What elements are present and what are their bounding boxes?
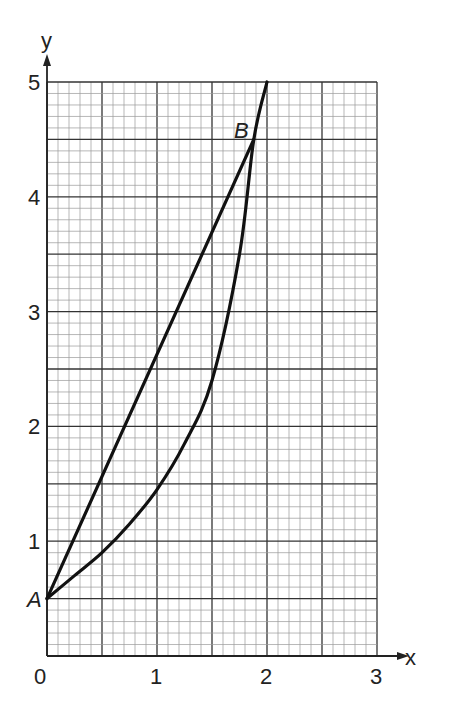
point-b-label: B xyxy=(234,120,249,142)
x-tick-2: 2 xyxy=(260,666,272,688)
y-axis-arrow-icon xyxy=(43,54,51,66)
x-tick-1: 1 xyxy=(150,666,162,688)
point-a-label: A xyxy=(27,589,42,611)
y-tick-5: 5 xyxy=(28,72,40,94)
y-tick-4: 4 xyxy=(28,187,40,209)
graph-plot xyxy=(0,0,451,706)
x-tick-3: 3 xyxy=(370,666,382,688)
x-axis-label: x xyxy=(405,647,416,669)
y-axis-label: y xyxy=(41,30,52,52)
y-tick-1: 1 xyxy=(28,531,40,553)
origin-label: 0 xyxy=(34,666,46,688)
y-tick-3: 3 xyxy=(28,302,40,324)
y-tick-2: 2 xyxy=(28,416,40,438)
